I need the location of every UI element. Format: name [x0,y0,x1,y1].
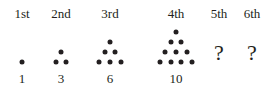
dot-triangles-layer [0,0,266,91]
count-label-4th: 10 [170,71,183,86]
dot [190,60,195,65]
dot-triangle-4th [0,0,266,91]
dot [179,40,184,45]
dot [184,50,189,55]
dot [174,30,179,35]
dot [157,60,162,65]
triangular-number-sequence-figure: 1st 2nd 3rd 4th 5th 6th ? ? 1 3 6 10 [0,0,266,91]
dot [174,50,179,55]
count-label-2nd: 3 [58,71,65,86]
dot [168,40,173,45]
dot [179,60,184,65]
dot [163,50,168,55]
count-label-1st: 1 [19,71,26,86]
dot [168,60,173,65]
unknown-mark-6th: ? [247,42,257,64]
count-label-3rd: 6 [107,71,114,86]
unknown-mark-5th: ? [214,42,224,64]
